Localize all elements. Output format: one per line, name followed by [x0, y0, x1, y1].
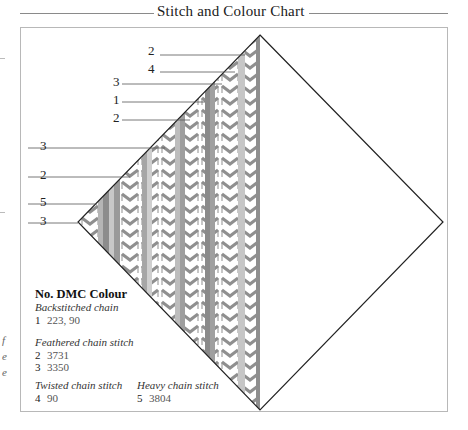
callout-label: 3 [40, 214, 47, 227]
legend-group-name: Twisted chain stitch [35, 379, 122, 392]
callout-label: 3 [40, 139, 47, 152]
legend-row: 490 [35, 392, 122, 405]
callout-label: 2 [113, 111, 120, 124]
legend-heading: No. DMC Colour [35, 288, 127, 301]
legend-no: 1 [35, 314, 47, 327]
legend-dmc: 3804 [149, 392, 171, 404]
callout-label: 4 [148, 62, 155, 75]
legend-group-heavy: Heavy chain stitch 53804 [137, 379, 219, 404]
legend-group-name: Heavy chain stitch [137, 379, 219, 392]
legend-row: 53804 [137, 392, 219, 405]
legend-dmc: 3350 [47, 361, 69, 373]
legend-group-feathered: Feathered chain stitch 23731 33350 [35, 336, 134, 374]
legend-dmc: 223, 90 [47, 314, 80, 326]
legend-group-twisted: Twisted chain stitch 490 [35, 379, 122, 404]
legend-no: 4 [35, 392, 47, 405]
legend-row: 23731 [35, 349, 134, 362]
callout-label: 1 [113, 93, 120, 106]
legend-group-name: Backstitched chain [35, 301, 118, 314]
legend-dmc: 3731 [47, 349, 69, 361]
callout-label: 3 [113, 75, 120, 88]
legend: No. DMC Colour [35, 288, 127, 301]
callout-label: 2 [40, 168, 47, 181]
legend-group-backstitched: Backstitched chain 1223, 90 [35, 301, 118, 326]
callout-label: 5 [40, 195, 47, 208]
legend-group-name: Feathered chain stitch [35, 336, 134, 349]
legend-row: 1223, 90 [35, 314, 118, 327]
legend-no: 5 [137, 392, 149, 405]
legend-row: 33350 [35, 361, 134, 374]
callout-label: 2 [148, 44, 155, 57]
legend-no: 2 [35, 349, 47, 362]
legend-dmc: 90 [47, 392, 58, 404]
legend-no: 3 [35, 361, 47, 374]
